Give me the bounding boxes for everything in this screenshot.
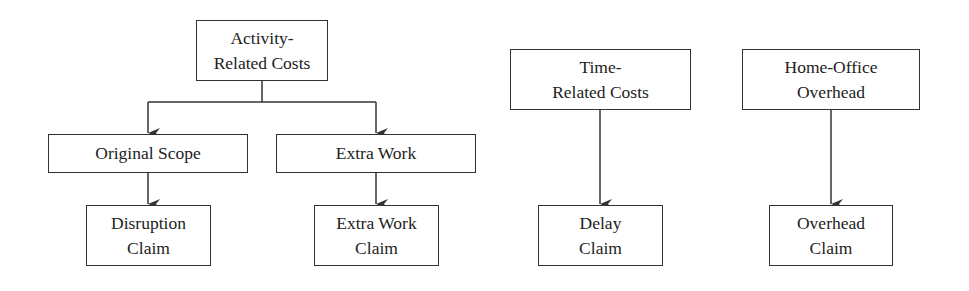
node-label-line1: Activity- (230, 26, 293, 51)
node-label-line2: Claim (355, 236, 398, 261)
node-label-line2: Claim (810, 236, 853, 261)
node-overhead-claim: Overhead Claim (769, 205, 893, 266)
node-label-line2: Related Costs (214, 51, 311, 76)
node-extra-work-claim: Extra Work Claim (314, 205, 439, 266)
node-original-scope: Original Scope (48, 134, 248, 173)
node-label-line1: Delay (580, 211, 622, 236)
node-label-line1: Extra Work (336, 211, 416, 236)
node-delay-claim: Delay Claim (538, 205, 663, 266)
node-label-line1: Time- (579, 55, 621, 80)
node-label-line2: Claim (127, 236, 170, 261)
node-activity-related-costs: Activity- Related Costs (196, 20, 328, 81)
node-disruption-claim: Disruption Claim (86, 205, 211, 266)
node-label-line2: Related Costs (552, 80, 649, 105)
node-label-line1: Home-Office (785, 55, 878, 80)
node-label-line2: Claim (579, 236, 622, 261)
node-time-related-costs: Time- Related Costs (510, 49, 691, 110)
node-label-line1: Original Scope (95, 141, 200, 166)
node-label-line1: Extra Work (336, 141, 416, 166)
node-extra-work: Extra Work (276, 134, 476, 173)
node-label-line1: Disruption (111, 211, 186, 236)
node-label-line1: Overhead (797, 211, 865, 236)
node-home-office-overhead: Home-Office Overhead (742, 49, 920, 110)
node-label-line2: Overhead (797, 80, 865, 105)
